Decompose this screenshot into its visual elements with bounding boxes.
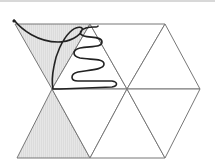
triangle-grid [15, 24, 200, 158]
triangle-grid-diagram [0, 0, 215, 166]
curve-start-dot-icon [12, 19, 15, 22]
